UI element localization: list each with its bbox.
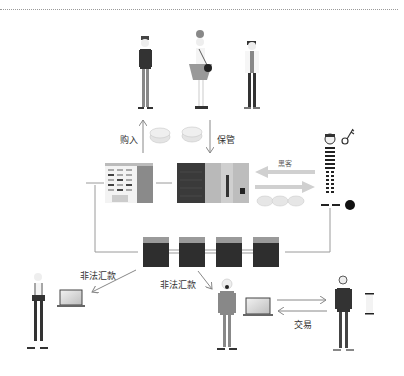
ball-and-chain-icon: [345, 200, 355, 210]
block-2: [179, 237, 205, 267]
person-man-white-coat-icon: [244, 41, 260, 109]
trade-arrows: [277, 300, 327, 311]
server-rack-icon: [177, 163, 249, 203]
person-man-jacket-icon: [138, 36, 153, 109]
illegal-transfer-label-middle: 非法汇款: [160, 278, 196, 291]
person-woman-bag-icon: [189, 30, 212, 109]
coins-stolen: [257, 196, 304, 206]
diagram-canvas: [0, 0, 404, 376]
illegal-transfer-arrow-middle: [198, 271, 212, 289]
person-bottom-middle-icon: [217, 279, 237, 350]
person-bottom-left-icon: [27, 273, 48, 349]
buy-label: 购入: [120, 133, 138, 146]
phone-icon: [365, 293, 374, 315]
custody-label: 保管: [217, 133, 235, 146]
hacker-label: 黑客: [278, 158, 292, 168]
hacker-figure-icon: [321, 134, 355, 210]
laptop-left-icon: [57, 290, 85, 307]
trade-label: 交易: [294, 318, 312, 331]
hacker-arrows: [255, 166, 315, 193]
exchange-building-icon: [105, 163, 153, 203]
key-icon: [342, 129, 354, 144]
illegal-transfer-label-left: 非法汇款: [80, 269, 116, 282]
laptop-middle-icon: [243, 298, 273, 316]
block-4: [253, 237, 279, 267]
person-bottom-right-icon: [333, 276, 354, 351]
block-3: [216, 237, 242, 267]
coins-top: [150, 127, 202, 143]
blockchain-icon: [143, 237, 279, 267]
block-1: [143, 237, 169, 267]
